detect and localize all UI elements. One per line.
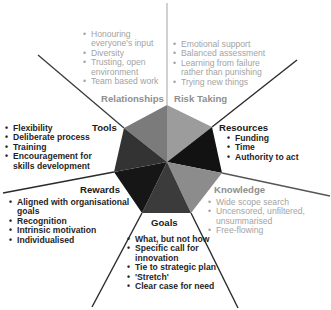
rewards-heading: Rewards — [80, 184, 120, 195]
risk-taking-list: Emotional support Balanced assessment Le… — [172, 40, 284, 87]
knowledge-list: Wide scope search Uncensored, unfiltered… — [207, 198, 331, 236]
list-item: Uncensored, unfiltered, unsummarised — [207, 207, 331, 226]
list-item: Clear case for need — [126, 282, 222, 291]
tools-list: Flexibility Deliberate process Training … — [4, 124, 99, 171]
list-item: Aligned with organisational goals — [8, 198, 136, 217]
resources-heading: Resources — [219, 122, 268, 133]
list-item: Encouragement for skills development — [4, 152, 99, 171]
risk-taking-heading: Risk Taking — [174, 93, 227, 104]
resources-list: Funding Time Authority to act — [226, 134, 331, 162]
list-item: Specific call for innovation — [126, 244, 222, 263]
relationships-heading: Relationships — [101, 93, 164, 104]
list-item: Free-flowing — [207, 226, 331, 235]
goals-heading: Goals — [151, 217, 178, 228]
list-item: Individualised — [8, 236, 136, 245]
relationships-list: Honouring everyone's input Diversity Tru… — [82, 30, 166, 86]
list-item: Honouring everyone's input — [82, 30, 166, 49]
list-item: Authority to act — [226, 153, 331, 162]
goals-list: What, but not how Specific call for inno… — [126, 235, 222, 291]
rewards-list: Aligned with organisational goals Recogn… — [8, 198, 136, 245]
knowledge-heading: Knowledge — [214, 184, 265, 195]
list-item: Trying new things — [172, 78, 284, 87]
list-item: Trusting, open environment — [82, 58, 166, 77]
list-item: Team based work — [82, 77, 166, 86]
list-item: Learning from failure rather than punish… — [172, 59, 284, 78]
